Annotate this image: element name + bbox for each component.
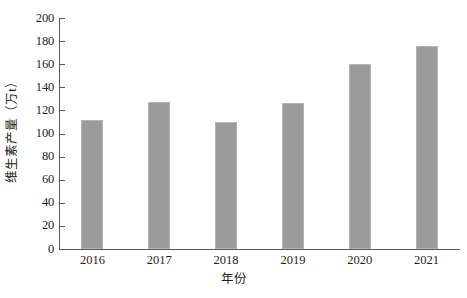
- y-axis-tick-label-wrap: 180: [22, 35, 54, 48]
- y-axis-tick-label: 140: [26, 81, 54, 94]
- y-axis-tick-label-wrap: 80: [22, 150, 54, 163]
- y-axis-tick-label-wrap: 0: [22, 243, 54, 256]
- bar-chart-figure: 020406080100120140160180200 201620172018…: [0, 0, 467, 298]
- x-axis-title: 年份: [0, 272, 467, 286]
- y-axis-tick-label: 120: [26, 104, 54, 117]
- y-axis-tick-label-wrap: 200: [22, 12, 54, 25]
- bar: [148, 102, 170, 249]
- y-axis-tick-label: 80: [26, 150, 54, 163]
- y-axis-tick-mark: [60, 110, 65, 111]
- y-axis-tick-mark: [60, 134, 65, 135]
- y-axis-tick-label-wrap: 140: [22, 81, 54, 94]
- y-axis-tick-label: 180: [26, 35, 54, 48]
- y-axis-tick-mark: [60, 64, 65, 65]
- y-axis-tick-label-wrap: 160: [22, 58, 54, 71]
- y-axis-tick-mark: [60, 226, 65, 227]
- x-axis-tick-label: 2016: [62, 253, 122, 267]
- bar: [349, 64, 371, 249]
- bar: [81, 120, 103, 249]
- y-axis-tick-label-wrap: 100: [22, 127, 54, 140]
- x-axis-line: [59, 249, 460, 250]
- x-axis-tick-label: 2020: [330, 253, 390, 267]
- y-axis-tick-label: 160: [26, 58, 54, 71]
- y-axis-tick-label: 20: [26, 219, 54, 232]
- y-axis-tick-mark: [60, 18, 65, 19]
- bar: [215, 122, 237, 249]
- y-axis-tick-mark: [60, 41, 65, 42]
- y-axis-tick-mark: [60, 157, 65, 158]
- y-axis-tick-label-wrap: 40: [22, 196, 54, 209]
- x-axis-tick-label: 2017: [129, 253, 189, 267]
- y-axis-tick-label: 0: [26, 243, 54, 256]
- x-axis-tick-label: 2018: [196, 253, 256, 267]
- y-axis-tick-label-wrap: 120: [22, 104, 54, 117]
- plot-area: [59, 18, 460, 249]
- y-axis-tick-label-wrap: 60: [22, 173, 54, 186]
- y-axis-tick-label: 60: [26, 173, 54, 186]
- bar: [282, 103, 304, 249]
- y-axis-tick-label: 40: [26, 196, 54, 209]
- y-axis-tick-mark: [60, 180, 65, 181]
- y-axis-tick-mark: [60, 87, 65, 88]
- x-axis-tick-label: 2019: [263, 253, 323, 267]
- y-axis-tick-label: 200: [26, 12, 54, 25]
- x-axis-tick-label: 2021: [397, 253, 457, 267]
- bar: [416, 46, 438, 249]
- y-axis-tick-label: 100: [26, 127, 54, 140]
- y-axis-title: 维生素产量（万t）: [5, 74, 19, 184]
- y-axis-tick-mark: [60, 203, 65, 204]
- y-axis-tick-label-wrap: 20: [22, 219, 54, 232]
